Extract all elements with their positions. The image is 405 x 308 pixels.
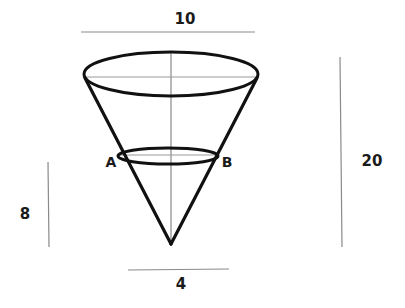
cross-section-ellipse <box>118 148 218 164</box>
height-label: 20 <box>362 152 383 170</box>
cone-right-side <box>171 78 257 244</box>
cone-diagram: 10 20 8 4 A B <box>0 0 405 308</box>
bottom-width-label: 4 <box>176 275 186 293</box>
top-diameter-label: 10 <box>175 10 196 28</box>
height-dimension-line <box>340 57 342 247</box>
point-a-label: A <box>106 154 117 170</box>
section-height-dimension-line <box>48 162 49 247</box>
bottom-width-dimension-line <box>128 269 229 270</box>
point-b-label: B <box>222 154 233 170</box>
section-height-label: 8 <box>20 205 30 223</box>
